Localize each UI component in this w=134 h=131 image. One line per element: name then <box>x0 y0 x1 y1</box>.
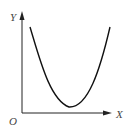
x-axis-arrow-icon <box>103 111 112 116</box>
u-curve <box>30 27 110 107</box>
y-axis-label: Y <box>10 12 16 23</box>
diagram-canvas <box>0 0 134 131</box>
x-axis-label: X <box>116 109 123 120</box>
u-curve-diagram: Y X O <box>0 0 134 131</box>
origin-label: O <box>9 116 17 127</box>
y-axis-arrow-icon <box>20 11 25 20</box>
